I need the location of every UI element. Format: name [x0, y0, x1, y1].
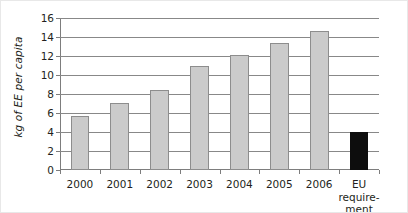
x-tick-mark [220, 170, 221, 174]
y-tick-label: 6 [47, 107, 54, 119]
bar-chart-figure: kg of EE per capita 0246810121416 200020… [0, 0, 408, 213]
x-tick-mark [259, 170, 260, 174]
gridline [60, 151, 379, 152]
gridline [60, 37, 379, 38]
y-tick-mark [56, 151, 60, 152]
bar-2000 [71, 116, 90, 170]
gridline [60, 94, 379, 95]
bar-2001 [110, 103, 129, 170]
y-tick-mark [56, 75, 60, 76]
y-tick-label: 8 [47, 88, 54, 100]
x-tick-mark [299, 170, 300, 174]
y-tick-label: 0 [47, 164, 54, 176]
bar-2005 [270, 43, 289, 170]
y-tick-mark [56, 94, 60, 95]
y-tick-mark [56, 56, 60, 57]
y-tick-label: 4 [47, 126, 54, 138]
y-axis-title: kg of EE per capita [5, 17, 31, 157]
x-tick-mark [100, 170, 101, 174]
bar-2004 [230, 55, 249, 170]
x-tick-mark [180, 170, 181, 174]
y-tick-label: 12 [41, 50, 54, 62]
y-tick-mark [56, 18, 60, 19]
gridline [60, 113, 379, 114]
y-axis-title-text: kg of EE per capita [12, 36, 24, 137]
plot-area: 0246810121416 20002001200220032004200520… [60, 18, 379, 170]
bar-eu-require--ment [350, 132, 369, 170]
y-tick-mark [56, 113, 60, 114]
x-tick-mark [339, 170, 340, 174]
x-tick-mark [140, 170, 141, 174]
y-tick-label: 16 [41, 12, 54, 24]
bar-2002 [150, 90, 169, 170]
y-tick-label: 14 [41, 31, 54, 43]
x-tick-mark [379, 170, 380, 174]
gridline [60, 56, 379, 57]
y-tick-label: 10 [41, 69, 54, 81]
x-tick-label: EU require- ment [331, 178, 387, 213]
y-tick-mark [56, 132, 60, 133]
gridline [60, 18, 379, 19]
bar-2006 [310, 31, 329, 170]
y-tick-label: 2 [47, 145, 54, 157]
gridline [60, 132, 379, 133]
bar-2003 [190, 66, 209, 171]
gridline [60, 75, 379, 76]
y-tick-mark [56, 37, 60, 38]
x-tick-mark [60, 170, 61, 174]
